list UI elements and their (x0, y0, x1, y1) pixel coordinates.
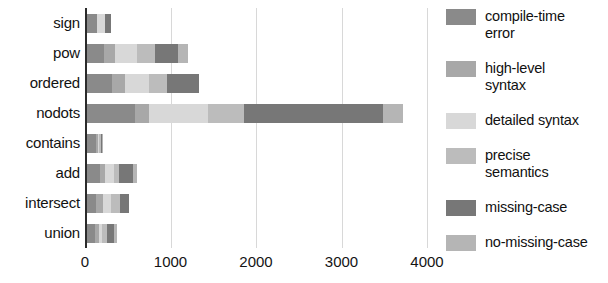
x-axis-tick-labels: 01000200030004000 (0, 250, 440, 280)
bar-segment-pow-precise-semantics (137, 44, 155, 63)
bar-segment-nodots-detailed-syntax (149, 104, 209, 123)
x-tick-label-2000: 2000 (239, 254, 272, 270)
bar-segment-ordered-precise-semantics (149, 74, 167, 93)
legend-swatch-icon (446, 235, 476, 251)
bar-segment-pow-no-missing-case (178, 44, 188, 63)
bar-ordered (87, 74, 199, 93)
bar-segment-union-no-missing-case (114, 224, 117, 243)
bar-segment-pow-detailed-syntax (115, 44, 137, 63)
bar-intersect (87, 194, 129, 213)
legend-item-detailed-syntax[interactable]: detailed syntax (446, 112, 579, 129)
bar-segment-intersect-precise-semantics (111, 194, 120, 213)
legend-item-high-level-syntax[interactable]: high-level syntax (446, 60, 545, 94)
bar-segment-contains-no-missing-case (102, 134, 103, 153)
bar-segment-ordered-detailed-syntax (125, 74, 149, 93)
bar-segment-intersect-compile-time-error (87, 194, 96, 213)
bar-segment-nodots-compile-time-error (87, 104, 135, 123)
bar-segment-intersect-detailed-syntax (103, 194, 111, 213)
bar-segment-pow-compile-time-error (87, 44, 104, 63)
legend-item-no-missing-case[interactable]: no-missing-case (446, 234, 588, 251)
bar-segment-add-detailed-syntax (105, 164, 114, 183)
legend-label: high-level syntax (485, 60, 545, 94)
bar-segment-union-compile-time-error (87, 224, 95, 243)
x-tick-label-0: 0 (81, 254, 89, 270)
x-tick-label-3000: 3000 (325, 254, 358, 270)
bar-add (87, 164, 137, 183)
legend-item-compile-time-error[interactable]: compile-time error (446, 8, 565, 42)
bar-nodots (87, 104, 403, 123)
chart-figure: signpoworderednodotscontainsaddintersect… (0, 0, 608, 283)
legend-swatch-icon (446, 148, 476, 164)
legend-swatch-icon (446, 200, 476, 216)
legend-label: precise semantics (485, 147, 548, 181)
bar-union (87, 224, 117, 243)
legend-swatch-icon (446, 9, 476, 25)
bar-segment-ordered-compile-time-error (87, 74, 112, 93)
bar-segment-add-compile-time-error (87, 164, 100, 183)
bar-segment-nodots-no-missing-case (383, 104, 404, 123)
legend-label: detailed syntax (485, 112, 579, 129)
x-tick-label-1000: 1000 (154, 254, 187, 270)
legend-label: missing-case (485, 199, 567, 216)
legend-item-precise-semantics[interactable]: precise semantics (446, 147, 548, 181)
bar-segment-nodots-missing-case (244, 104, 383, 123)
bar-segment-sign-missing-case (105, 14, 111, 33)
bar-segment-add-missing-case (119, 164, 133, 183)
bar-segment-nodots-high-level-syntax (135, 104, 149, 123)
bar-sign (87, 14, 111, 33)
plot-area: signpoworderednodotscontainsaddintersect… (0, 0, 440, 283)
bar-segment-ordered-high-level-syntax (112, 74, 125, 93)
bar-segment-pow-high-level-syntax (104, 44, 115, 63)
legend-swatch-icon (446, 113, 476, 129)
chart-legend: compile-time errorhigh-level syntaxdetai… (446, 4, 608, 279)
bar-segment-sign-compile-time-error (87, 14, 97, 33)
legend-label: no-missing-case (485, 234, 588, 251)
legend-item-missing-case[interactable]: missing-case (446, 199, 567, 216)
bar-pow (87, 44, 188, 63)
legend-label: compile-time error (485, 8, 565, 42)
bar-segment-union-missing-case (107, 224, 115, 243)
bar-segment-intersect-high-level-syntax (96, 194, 103, 213)
bar-segment-pow-missing-case (155, 44, 177, 63)
bar-segment-intersect-missing-case (120, 194, 129, 213)
bar-segment-ordered-missing-case (167, 74, 199, 93)
bar-contains (87, 134, 103, 153)
x-tick-label-4000: 4000 (410, 254, 443, 270)
bar-segment-add-no-missing-case (133, 164, 136, 183)
bar-segment-nodots-precise-semantics (208, 104, 244, 123)
legend-swatch-icon (446, 61, 476, 77)
bar-segment-contains-compile-time-error (87, 134, 96, 153)
bar-series-layer (0, 8, 440, 248)
bar-segment-sign-detailed-syntax (97, 14, 105, 33)
